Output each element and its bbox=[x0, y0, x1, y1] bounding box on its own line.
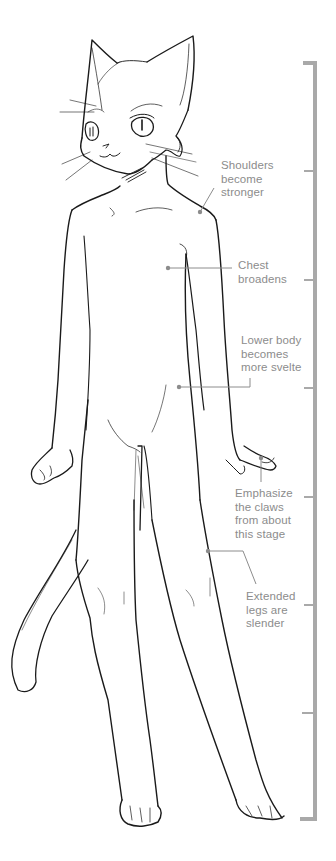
ruler-tick bbox=[304, 604, 313, 606]
annotation-shoulders: Shoulders become stronger bbox=[221, 159, 274, 200]
annotation-chest: Chest broadens bbox=[238, 259, 287, 286]
annotation-leaders bbox=[0, 0, 336, 861]
ruler-spine bbox=[313, 61, 317, 821]
ruler-tick bbox=[304, 170, 313, 172]
leader-claws bbox=[259, 456, 263, 482]
ruler-tick bbox=[304, 387, 313, 389]
ruler-tick bbox=[302, 712, 313, 714]
ruler-tick bbox=[304, 496, 313, 498]
ruler-tick bbox=[304, 279, 313, 281]
annotation-lower-body: Lower body becomes more svelte bbox=[241, 334, 302, 375]
figure-canvas: Shoulders become stronger Chest broadens… bbox=[0, 0, 336, 861]
annotation-legs: Extended legs are slender bbox=[246, 590, 295, 631]
leader-lower-body bbox=[177, 378, 250, 389]
leader-chest bbox=[166, 266, 232, 270]
ruler-cap-top bbox=[303, 61, 317, 65]
leader-legs bbox=[206, 549, 256, 584]
leader-shoulders bbox=[198, 188, 214, 214]
annotation-claws: Emphasize the claws from about this stag… bbox=[235, 487, 293, 541]
ruler-cap-bottom bbox=[300, 817, 317, 821]
